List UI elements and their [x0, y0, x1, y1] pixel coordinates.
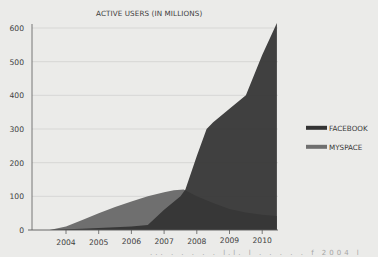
chart-title: ACTIVE USERS (IN MILLIONS)	[96, 9, 202, 18]
y-axis-labels: 0100200300400500600	[10, 24, 25, 235]
facebook-legend-label: FACEBOOK	[329, 124, 368, 133]
x-axis-labels: 2004200520062007200820092010	[56, 236, 272, 247]
x-tick-label: 2006	[122, 237, 141, 246]
facebook-legend-swatch	[306, 126, 327, 130]
y-tick-label: 100	[10, 192, 25, 201]
y-tick-label: 500	[10, 58, 25, 67]
x-tick-label: 2005	[89, 238, 108, 247]
y-tick-label: 400	[10, 91, 25, 100]
area-chart: 0100200300400500600 20042005200620072008…	[0, 0, 378, 257]
myspace-legend-label: MYSPACE	[329, 143, 363, 152]
myspace-legend-swatch	[306, 145, 327, 149]
x-tick-label: 2004	[56, 238, 75, 247]
series-areas	[50, 23, 277, 230]
legend: FACEBOOKMYSPACE	[306, 124, 368, 152]
y-tick-label: 300	[10, 125, 25, 134]
cutoff-body-text: ... . . . . . l.l. l . . . . . f 2004 l	[150, 249, 362, 257]
y-tick-label: 600	[10, 24, 25, 33]
x-tick-label: 2007	[154, 237, 173, 246]
x-tick-label: 2009	[220, 236, 239, 245]
x-tick-label: 2010	[253, 236, 272, 245]
x-tick-label: 2008	[187, 237, 206, 246]
y-tick-label: 0	[19, 226, 24, 235]
y-tick-label: 200	[10, 159, 25, 168]
